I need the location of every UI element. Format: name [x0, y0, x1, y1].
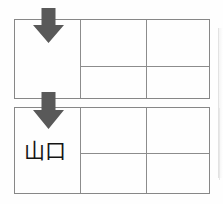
label-cell-bottom-text: 山口 [24, 141, 66, 162]
cell-top-r2c3[interactable] [146, 66, 209, 98]
cell-top-r2c2[interactable] [80, 66, 146, 98]
down-arrow-icon [33, 8, 64, 43]
form-canvas: 山口 [0, 0, 223, 204]
cell-bottom-r2c3[interactable] [146, 153, 209, 193]
cell-bottom-r1c3[interactable] [146, 108, 209, 153]
page-edge-artifact-lower [219, 108, 223, 180]
cell-top-r1c2[interactable] [80, 20, 146, 66]
cell-top-r1c3[interactable] [146, 20, 209, 66]
cell-bottom-r1c2[interactable] [80, 108, 146, 153]
down-arrow-icon [33, 92, 64, 129]
cell-bottom-r2c2[interactable] [80, 153, 146, 193]
